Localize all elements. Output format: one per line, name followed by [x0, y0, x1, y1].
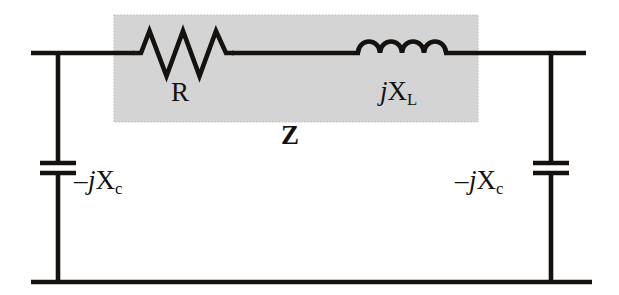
capacitor-left-label-x: X — [96, 165, 116, 195]
capacitor-left-label: –jXc — [74, 167, 123, 198]
resistor-label: R — [171, 79, 189, 106]
capacitor-left-label-sign: – — [74, 165, 88, 195]
capacitor-left-label-j: j — [88, 165, 96, 195]
inductor-label: jXL — [380, 78, 417, 109]
inductor-label-j: j — [380, 76, 388, 106]
circuit-schematic-svg — [0, 0, 619, 295]
impedance-label-text: Z — [281, 120, 299, 150]
capacitor-left-label-subscript: c — [115, 179, 123, 198]
capacitor-right-label-j: j — [469, 165, 477, 195]
circuit-diagram: R jXL Z –jXc –jXc — [0, 0, 619, 295]
capacitor-right-label-x: X — [477, 165, 497, 195]
capacitor-right-label-sign: – — [455, 165, 469, 195]
capacitor-right-label-subscript: c — [496, 179, 504, 198]
resistor-label-text: R — [171, 77, 189, 107]
inductor-label-subscript: L — [407, 90, 417, 109]
capacitor-right-label: –jXc — [455, 167, 504, 198]
impedance-label: Z — [281, 122, 299, 149]
inductor-label-x: X — [388, 76, 408, 106]
